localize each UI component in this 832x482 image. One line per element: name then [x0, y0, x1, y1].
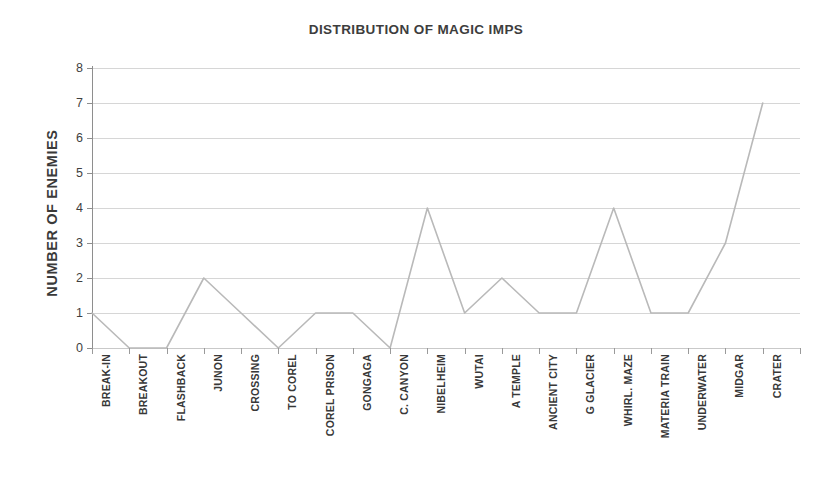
x-axis-label-text: TO COREL: [286, 354, 298, 410]
x-axis-label-text: BREAKOUT: [137, 354, 149, 415]
y-axis-title: NUMBER OF ENEMIES: [44, 83, 60, 343]
x-axis-label: BREAK-IN: [96, 354, 108, 407]
x-axis-label-text: FLASHBACK: [175, 354, 187, 421]
x-axis-label: WHIRL. MAZE: [618, 354, 630, 426]
x-axis-label-text: BREAK-IN: [100, 354, 112, 407]
series-line-magic-imps: [92, 103, 763, 348]
y-tick-label: 2: [76, 271, 83, 285]
x-axis-label-text: C. CANYON: [398, 354, 410, 415]
x-axis-label-text: G GLACIER: [584, 354, 596, 414]
x-axis-label-text: MATERIA TRAIN: [659, 354, 671, 438]
x-axis-label: A TEMPLE: [506, 354, 518, 408]
x-axis-label-text: WHIRL. MAZE: [622, 354, 634, 426]
x-axis-label: BREAKOUT: [133, 354, 145, 415]
x-axis-label: FLASHBACK: [171, 354, 183, 421]
x-axis-label: MATERIA TRAIN: [655, 354, 667, 438]
y-tick-label: 5: [76, 166, 83, 180]
x-axis-label: MIDGAR: [729, 354, 741, 398]
x-axis-label: JUNON: [208, 354, 220, 392]
x-axis-label: C. CANYON: [394, 354, 406, 415]
y-tick-label: 0: [76, 341, 83, 355]
chart-figure: DISTRIBUTION OF MAGIC IMPS NUMBER OF ENE…: [0, 0, 832, 482]
chart-title: DISTRIBUTION OF MAGIC IMPS: [0, 22, 832, 37]
x-axis-label-text: JUNON: [212, 354, 224, 392]
plot-area: 876543210: [92, 68, 800, 348]
x-axis-labels: BREAK-INBREAKOUTFLASHBACKJUNONCROSSINGTO…: [92, 354, 801, 474]
x-axis-label: UNDERWATER: [692, 354, 704, 430]
x-axis-label: CROSSING: [245, 354, 257, 412]
series-line-chart: [92, 68, 800, 348]
x-axis-label-text: CRATER: [771, 354, 783, 398]
x-axis-label: CRATER: [767, 354, 779, 398]
x-axis-label: TO COREL: [282, 354, 294, 410]
y-tick-label: 1: [76, 306, 83, 320]
x-axis-label: ANCIENT CITY: [543, 354, 555, 430]
y-tick-label: 8: [76, 61, 83, 75]
x-axis-label-text: A TEMPLE: [510, 354, 522, 408]
x-axis-label-text: COREL PRISON: [324, 354, 336, 436]
x-axis-label-text: NIBELHEIM: [435, 354, 447, 414]
x-axis-label: WUTAI: [469, 354, 481, 389]
x-axis-label-text: MIDGAR: [733, 354, 745, 398]
x-axis-label: COREL PRISON: [320, 354, 332, 436]
x-axis-label-text: CROSSING: [249, 354, 261, 412]
y-tick-label: 3: [76, 236, 83, 250]
y-tick-label: 6: [76, 131, 83, 145]
y-tick-label: 7: [76, 96, 83, 110]
x-axis-label: NIBELHEIM: [431, 354, 443, 414]
y-tick-label: 4: [76, 201, 83, 215]
x-axis-label: G GLACIER: [580, 354, 592, 414]
x-axis-label: GONGAGA: [357, 354, 369, 411]
x-axis-label-text: WUTAI: [473, 354, 485, 389]
x-axis-label-text: ANCIENT CITY: [547, 354, 559, 430]
x-axis-label-text: GONGAGA: [361, 354, 373, 411]
x-axis-label-text: UNDERWATER: [696, 354, 708, 430]
